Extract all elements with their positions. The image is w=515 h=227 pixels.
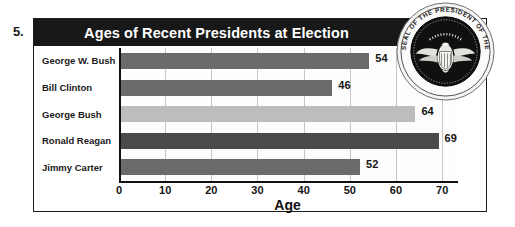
x-tick-label: 60 [390,184,402,196]
x-axis-title: Age [119,197,456,213]
presidential-seal-icon: SEAL OF THE PRESIDENT OF THE UNITED STAT… [396,2,495,101]
bar-row: 64 [119,101,456,128]
y-axis-line [119,48,121,181]
bar [120,133,439,149]
chart-title: Ages of Recent Presidents at Election [34,19,399,46]
category-label: George W. Bush [42,55,116,66]
x-tick-label: 50 [344,184,356,196]
category-label: Bill Clinton [42,82,116,93]
x-tick-label: 10 [159,184,171,196]
chart-title-banner: Ages of Recent Presidents at Election [34,19,426,46]
question-number: 5. [13,24,23,39]
bar-value-label: 64 [421,105,433,117]
bar [120,80,332,96]
bar-value-label: 46 [338,79,350,91]
x-axis-line [119,181,458,183]
x-tick-label: 70 [436,184,448,196]
category-label: Ronald Reagan [42,135,116,146]
x-tick-label: 40 [298,184,310,196]
x-tick-label: 30 [251,184,263,196]
bar [120,106,415,122]
bar [120,159,360,175]
bar-value-label: 52 [366,158,378,170]
bar-value-label: 54 [375,52,387,64]
bar-row: 52 [119,154,456,181]
category-label: George Bush [42,109,116,120]
bar-value-label: 69 [445,132,457,144]
x-tick-label: 20 [205,184,217,196]
bar [120,53,369,69]
bar-row: 69 [119,128,456,155]
x-tick-label: 0 [116,184,122,196]
category-label: Jimmy Carter [42,162,116,173]
